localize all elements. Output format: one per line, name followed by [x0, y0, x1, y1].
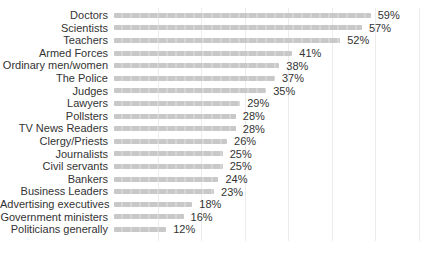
value-label: 29%	[247, 97, 269, 109]
chart-row: Civil servants25%	[0, 160, 428, 173]
value-label: 23%	[221, 186, 243, 198]
category-label: Bankers	[0, 173, 114, 186]
value-label: 52%	[347, 34, 369, 46]
chart-row: Business Leaders23%	[0, 185, 428, 198]
category-label: Politicians generally	[0, 223, 114, 236]
value-label: 25%	[230, 148, 252, 160]
bar	[114, 202, 192, 207]
chart-row: Armed Forces41%	[0, 47, 428, 60]
value-label: 12%	[173, 223, 195, 235]
bar	[114, 214, 184, 219]
bar	[114, 151, 223, 156]
category-label: Civil servants	[0, 160, 114, 173]
chart-row: Clergy/Priests26%	[0, 135, 428, 148]
value-label: 28%	[243, 123, 265, 135]
plot-area: 35%	[114, 85, 295, 98]
chart-row: Politicians generally12%	[0, 223, 428, 236]
chart-row: Lawyers29%	[0, 97, 428, 110]
chart-row: Judges35%	[0, 85, 428, 98]
plot-area: 16%	[114, 211, 213, 224]
chart-rows: Doctors59%Scientists57%Teachers52%Armed …	[0, 9, 428, 236]
category-label: Lawyers	[0, 97, 114, 110]
plot-area: 59%	[114, 9, 400, 22]
trust-bar-chart: Doctors59%Scientists57%Teachers52%Armed …	[0, 0, 428, 255]
plot-area: 23%	[114, 185, 243, 198]
bar	[114, 38, 340, 43]
value-label: 24%	[225, 173, 247, 185]
bar	[114, 139, 227, 144]
bar	[114, 227, 166, 232]
category-label: Ordinary men/women	[0, 59, 114, 72]
plot-area: 25%	[114, 160, 252, 173]
chart-row: The Police37%	[0, 72, 428, 85]
category-label: Scientists	[0, 22, 114, 35]
value-label: 25%	[230, 160, 252, 172]
category-label: TV News Readers	[0, 122, 114, 135]
bar	[114, 101, 240, 106]
plot-area: 12%	[114, 223, 195, 236]
plot-area: 28%	[114, 110, 265, 123]
value-label: 41%	[299, 47, 321, 59]
plot-area: 37%	[114, 72, 304, 85]
bar	[114, 114, 236, 119]
bar	[114, 76, 275, 81]
category-label: Government ministers	[0, 211, 114, 224]
bar	[114, 13, 371, 18]
plot-area: 52%	[114, 34, 369, 47]
category-label: Teachers	[0, 34, 114, 47]
value-label: 38%	[286, 60, 308, 72]
chart-row: Scientists57%	[0, 22, 428, 35]
value-label: 28%	[243, 110, 265, 122]
plot-area: 41%	[114, 47, 321, 60]
plot-area: 38%	[114, 59, 308, 72]
value-label: 37%	[282, 72, 304, 84]
bar	[114, 189, 214, 194]
chart-row: Bankers24%	[0, 173, 428, 186]
category-label: Advertising executives	[0, 198, 114, 211]
plot-area: 24%	[114, 173, 247, 186]
chart-row: TV News Readers28%	[0, 122, 428, 135]
value-label: 26%	[234, 135, 256, 147]
category-label: Doctors	[0, 9, 114, 22]
bar	[114, 63, 279, 68]
bar	[114, 126, 236, 131]
chart-row: Doctors59%	[0, 9, 428, 22]
category-label: Judges	[0, 85, 114, 98]
value-label: 18%	[199, 198, 221, 210]
value-label: 16%	[191, 211, 213, 223]
bar	[114, 88, 266, 93]
chart-row: Ordinary men/women38%	[0, 59, 428, 72]
plot-area: 18%	[114, 198, 221, 211]
category-label: Journalists	[0, 148, 114, 161]
category-label: Armed Forces	[0, 47, 114, 60]
category-label: The Police	[0, 72, 114, 85]
chart-row: Teachers52%	[0, 34, 428, 47]
plot-area: 29%	[114, 97, 269, 110]
chart-row: Government ministers16%	[0, 211, 428, 224]
bar	[114, 177, 218, 182]
plot-area: 57%	[114, 22, 391, 35]
bar	[114, 164, 223, 169]
value-label: 57%	[369, 22, 391, 34]
plot-area: 26%	[114, 135, 256, 148]
category-label: Pollsters	[0, 110, 114, 123]
plot-area: 25%	[114, 148, 252, 161]
plot-area: 28%	[114, 122, 265, 135]
bar	[114, 25, 362, 30]
chart-row: Journalists25%	[0, 148, 428, 161]
category-label: Business Leaders	[0, 185, 114, 198]
category-label: Clergy/Priests	[0, 135, 114, 148]
value-label: 35%	[273, 85, 295, 97]
chart-row: Advertising executives18%	[0, 198, 428, 211]
value-label: 59%	[378, 9, 400, 21]
bar	[114, 51, 292, 56]
chart-row: Pollsters28%	[0, 110, 428, 123]
